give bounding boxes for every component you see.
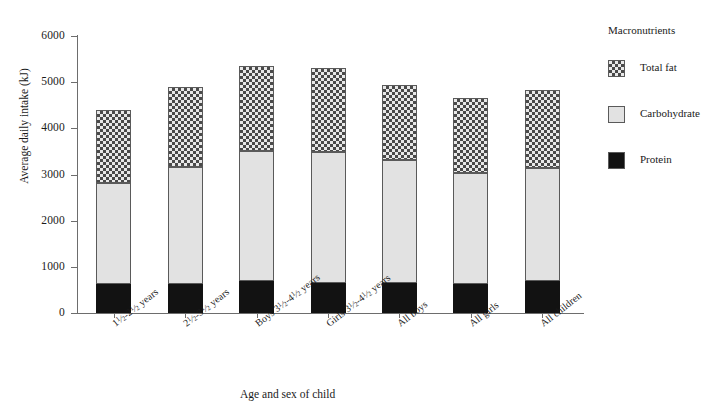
y-tick-mark — [71, 221, 77, 222]
light-gray-swatch — [608, 106, 625, 123]
bar — [525, 90, 560, 313]
bar — [96, 110, 131, 313]
y-tick-label: 6000 — [41, 27, 65, 43]
bar-segment-total-fat — [525, 90, 560, 168]
y-tick-label: 3000 — [41, 166, 65, 182]
y-tick-mark — [71, 313, 77, 314]
bar-segment-total-fat — [311, 68, 346, 152]
bar-segment-carbohydrate — [96, 183, 131, 284]
legend-item-label: Protein — [640, 153, 672, 165]
legend: Macronutrients Total fatCarbohydrateProt… — [608, 24, 708, 198]
y-tick-label: 1000 — [41, 258, 65, 274]
legend-item[interactable]: Carbohydrate — [608, 106, 708, 152]
bar — [453, 98, 488, 313]
y-axis-title: Average daily intake (kJ) — [18, 26, 30, 226]
legend-items: Total fatCarbohydrateProtein — [608, 60, 708, 198]
bar-segment-carbohydrate — [382, 160, 417, 283]
y-tick-mark — [71, 267, 77, 268]
bar-segment-total-fat — [168, 87, 203, 167]
checkered-swatch — [608, 60, 625, 77]
y-tick-label: 5000 — [41, 73, 65, 89]
scan-artifact — [0, 0, 708, 3]
y-tick-label: 4000 — [41, 119, 65, 135]
black-swatch — [608, 152, 625, 169]
bar-segment-total-fat — [239, 66, 274, 151]
legend-title: Macronutrients — [608, 24, 708, 36]
x-axis-title: Age and sex of child — [240, 388, 335, 400]
stacked-bar-chart: 6000500040003000200010000 Average daily … — [0, 0, 708, 418]
bar-segment-carbohydrate — [453, 173, 488, 284]
bar-segment-carbohydrate — [168, 167, 203, 284]
legend-item-label: Carbohydrate — [640, 107, 700, 119]
y-tick-mark — [71, 175, 77, 176]
bar-segment-total-fat — [382, 85, 417, 160]
y-tick-mark — [71, 128, 77, 129]
y-tick-mark — [71, 82, 77, 83]
bar — [239, 66, 274, 313]
y-tick-label: 0 — [59, 304, 65, 320]
y-tick-mark — [71, 36, 77, 37]
legend-item[interactable]: Total fat — [608, 60, 708, 106]
legend-item[interactable]: Protein — [608, 152, 708, 198]
bar — [168, 87, 203, 313]
legend-item-label: Total fat — [640, 61, 677, 73]
plot-area — [78, 36, 578, 313]
bar-segment-carbohydrate — [311, 152, 346, 283]
y-tick-label: 2000 — [41, 212, 65, 228]
bar-segment-carbohydrate — [525, 168, 560, 282]
bar-segment-carbohydrate — [239, 151, 274, 281]
bar-segment-total-fat — [96, 110, 131, 183]
bar-segment-total-fat — [453, 98, 488, 172]
